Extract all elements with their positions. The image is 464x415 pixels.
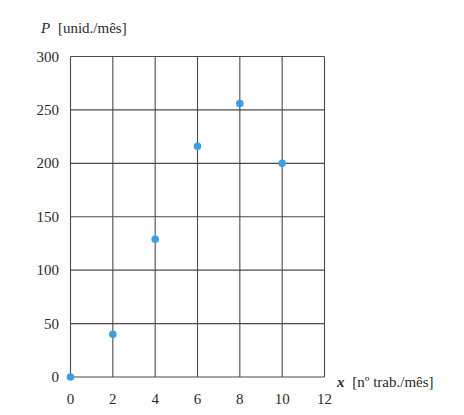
x-tick-label: 12	[317, 391, 332, 407]
x-axis-ticks: 024681012	[67, 391, 332, 407]
x-tick-label: 2	[109, 391, 117, 407]
data-point-marker	[236, 100, 244, 108]
y-tick-label: 250	[37, 102, 60, 118]
x-axis-label: x [nº trab./mês]	[336, 374, 434, 390]
x-tick-label: 6	[194, 391, 202, 407]
y-tick-label: 300	[37, 49, 60, 65]
y-tick-label: 150	[37, 209, 60, 225]
y-tick-label: 0	[52, 369, 60, 385]
y-axis-unit: [unid./mês]	[58, 20, 127, 36]
x-axis-variable: x	[336, 374, 345, 390]
y-axis-ticks: 050100150200250300	[37, 49, 60, 386]
x-tick-label: 0	[67, 391, 75, 407]
data-point-marker	[109, 330, 117, 338]
scatter-chart: 050100150200250300 024681012 P [unid./mê…	[0, 0, 464, 415]
y-tick-label: 50	[44, 316, 59, 332]
y-axis-variable: P	[40, 20, 50, 36]
chart-grid	[71, 57, 325, 378]
data-point-marker	[151, 235, 159, 243]
x-axis-unit: [nº trab./mês]	[352, 374, 433, 390]
y-axis-label: P [unid./mês]	[40, 20, 127, 36]
x-tick-label: 8	[236, 391, 244, 407]
x-tick-label: 4	[151, 391, 159, 407]
y-tick-label: 200	[37, 155, 60, 171]
data-points	[67, 100, 286, 381]
y-tick-label: 100	[37, 262, 60, 278]
data-point-marker	[278, 160, 286, 168]
data-point-marker	[194, 142, 202, 150]
x-tick-label: 10	[275, 391, 290, 407]
data-point-marker	[67, 373, 75, 381]
